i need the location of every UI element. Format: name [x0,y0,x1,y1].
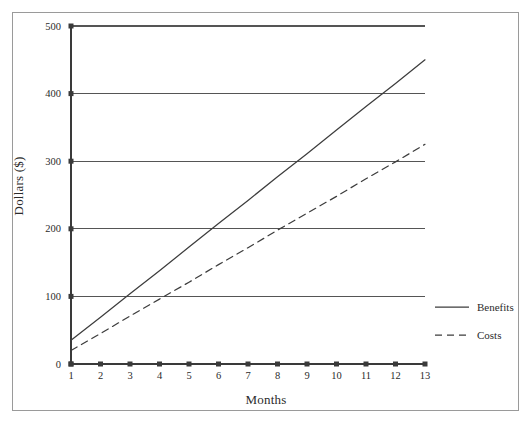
chart-plot-area: 0100200300400500 12345678910111213 Benef… [0,0,532,425]
chart-figure: 0100200300400500 12345678910111213 Benef… [0,0,532,425]
series-line-costs [71,144,425,350]
x-tick-label: 6 [216,370,221,381]
y-tick-mark [69,91,74,96]
y-tick-label: 200 [45,223,61,234]
y-tick-label: 300 [45,156,61,167]
y-tick-label: 100 [45,291,61,302]
y-tick-label: 400 [45,88,61,99]
x-tick-mark [98,362,103,367]
y-tick-labels: 0100200300400500 [45,21,61,370]
x-tick-label: 7 [245,370,250,381]
x-tick-mark [334,362,339,367]
y-tick-label: 0 [56,359,61,370]
x-tick-mark [128,362,133,367]
x-tick-labels: 12345678910111213 [68,370,430,381]
y-tick-mark [69,226,74,231]
x-tick-mark [157,362,162,367]
series-line-benefits [71,60,425,341]
x-tick-label: 10 [331,370,342,381]
x-tick-label: 4 [157,370,163,381]
gridlines [71,26,425,296]
x-tick-label: 11 [361,370,371,381]
y-tick-mark [69,24,74,29]
y-axis-title: Dollars ($) [11,131,27,241]
x-tick-mark [187,362,192,367]
x-tick-mark [423,362,428,367]
x-axis-title: Months [0,392,532,408]
y-tick-mark [69,294,74,299]
x-tick-mark [246,362,251,367]
legend-label-benefits: Benefits [477,301,514,313]
x-tick-label: 3 [127,370,132,381]
x-tick-label: 12 [390,370,401,381]
x-tick-mark [305,362,310,367]
x-tick-label: 13 [420,370,431,381]
x-tick-mark [69,362,74,367]
y-tick-mark [69,159,74,164]
y-tick-label: 500 [45,21,61,32]
legend-label-costs: Costs [477,329,501,341]
x-tick-mark [216,362,221,367]
x-tick-label: 1 [68,370,73,381]
x-tick-label: 9 [304,370,309,381]
x-tick-mark [275,362,280,367]
x-tick-mark [393,362,398,367]
x-tick-label: 2 [98,370,103,381]
x-tick-label: 5 [186,370,191,381]
series-lines [71,60,425,351]
x-tick-label: 8 [275,370,280,381]
chart-legend: BenefitsCosts [435,301,514,341]
x-tick-mark [364,362,369,367]
